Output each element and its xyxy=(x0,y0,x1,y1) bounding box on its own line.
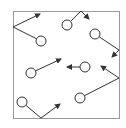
particle xyxy=(90,29,119,57)
particle xyxy=(26,59,61,78)
particle xyxy=(67,62,90,72)
particle xyxy=(62,11,89,30)
particles-in-box-diagram xyxy=(0,0,126,128)
velocity-arrow xyxy=(13,14,40,39)
velocity-arrow xyxy=(36,59,61,71)
particle-circle xyxy=(26,68,36,78)
particle-circle xyxy=(75,93,85,103)
velocity-arrow xyxy=(84,66,119,96)
particle-circle xyxy=(90,29,100,39)
velocity-arrow xyxy=(71,11,89,21)
particle-circle xyxy=(36,36,46,46)
particle-circle xyxy=(17,97,27,107)
particle xyxy=(17,97,60,118)
velocity-arrow xyxy=(26,104,60,118)
particles-group xyxy=(13,11,119,118)
particle-circle xyxy=(80,62,90,72)
particle-circle xyxy=(62,20,72,30)
velocity-arrow xyxy=(99,37,119,57)
particle xyxy=(13,14,46,46)
particle xyxy=(75,66,119,103)
